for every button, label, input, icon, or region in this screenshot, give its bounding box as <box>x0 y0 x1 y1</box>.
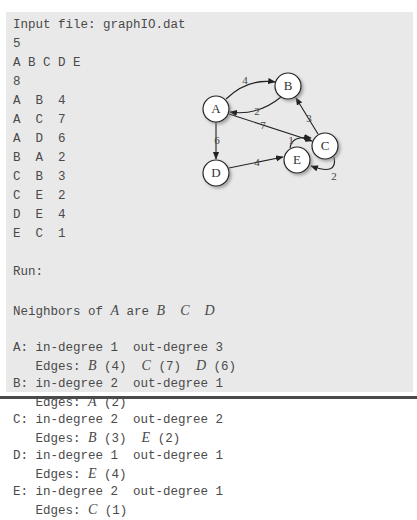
graph-node-d: D <box>203 160 229 186</box>
edge-weight-label: 2 <box>254 105 260 117</box>
graph-node-a: A <box>203 96 229 122</box>
edge-weight-label: 3 <box>306 112 312 124</box>
graph-node-b: B <box>275 73 301 99</box>
edge-target: E <box>88 466 97 481</box>
vertex-degree-line: D: in-degree 1 out-degree 1 <box>13 447 236 465</box>
svg-text:D: D <box>211 165 220 180</box>
edge-weight-label: 7 <box>260 119 266 131</box>
svg-text:E: E <box>293 152 301 167</box>
edge-weight-label: 2 <box>331 170 337 182</box>
edge-target: E <box>142 430 151 445</box>
graph-node-e: E <box>284 147 310 173</box>
edge-target: C <box>88 502 97 517</box>
svg-text:B: B <box>284 78 293 93</box>
vertex-edges-line: Edges: C (1) <box>13 501 236 519</box>
edge-weight-label: 6 <box>214 134 220 146</box>
bottom-rule <box>0 396 417 399</box>
edge-weight-label: 4 <box>254 156 260 168</box>
vertex-edges-line: Edges: E (4) <box>13 465 236 483</box>
graph-node-c: C <box>312 133 338 159</box>
graph-edge-ab <box>226 81 275 99</box>
edge-weight-label: 4 <box>242 74 248 86</box>
graph-edge-ac <box>229 114 312 141</box>
svg-text:C: C <box>321 138 330 153</box>
vertex-degree-line: C: in-degree 2 out-degree 2 <box>13 411 236 429</box>
edge-target: B <box>88 430 97 445</box>
vertex-degree-line: E: in-degree 2 out-degree 1 <box>13 483 236 501</box>
svg-text:A: A <box>211 101 221 116</box>
edge-weight-label: 1 <box>288 134 294 146</box>
vertex-edges-line: Edges: B (3) E (2) <box>13 429 236 447</box>
